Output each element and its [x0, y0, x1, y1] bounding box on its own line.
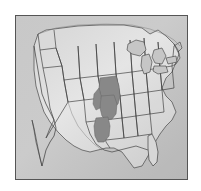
map-frame [15, 15, 188, 180]
figure-container: Grayscale outline map of the contiguous … [0, 0, 201, 191]
texture-overlay [16, 16, 187, 179]
us-map-svg [16, 16, 187, 179]
